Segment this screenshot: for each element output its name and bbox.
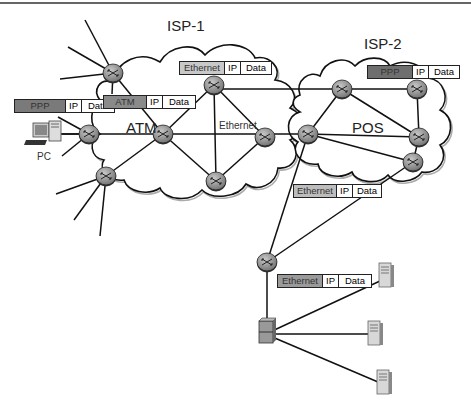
router-isp1-c: [255, 128, 275, 148]
packet-pc-ppp: PPP IP Data: [14, 99, 115, 113]
server-icon: [377, 370, 392, 394]
pc-label: PC: [37, 151, 51, 162]
router-isp1-d: [96, 167, 116, 187]
router-isp1-b: [204, 76, 224, 96]
ip-header: IP: [413, 66, 429, 78]
layer2-header: ATM: [104, 96, 147, 108]
ip-header: IP: [225, 62, 241, 74]
router-isp2-d: [409, 128, 429, 148]
switch-icon: [259, 318, 276, 343]
packet-isp1-ethernet: Ethernet IP Data: [179, 61, 272, 75]
ip-header: IP: [323, 275, 339, 287]
server-icon: [379, 263, 394, 287]
layer2-header: PPP: [15, 100, 66, 112]
atm-network-label: ATM: [126, 119, 157, 136]
pos-network-label: POS: [352, 119, 384, 136]
router-isp1-a: [103, 64, 123, 84]
ip-header: IP: [66, 100, 82, 112]
payload: Data: [241, 62, 271, 74]
payload: Data: [163, 96, 195, 108]
packet-isp2-ppp: PPP IP Data: [367, 65, 460, 79]
isp2-label: ISP-2: [364, 35, 402, 52]
server-icon: [368, 321, 383, 345]
payload: Data: [339, 275, 371, 287]
ethernet-network-label: Ethernet: [219, 120, 257, 131]
isp1-label: ISP-1: [167, 17, 205, 34]
layer2-header: PPP: [368, 66, 413, 78]
payload: Data: [429, 66, 459, 78]
layer2-header: Ethernet: [180, 62, 225, 74]
layer2-header: Ethernet: [278, 275, 323, 287]
layer2-header: Ethernet: [294, 185, 337, 197]
ip-header: IP: [147, 96, 163, 108]
packet-uplink-ethernet: Ethernet IP Data: [293, 184, 382, 198]
router-customer: [257, 253, 277, 273]
packet-isp1-atm: ATM IP Data: [103, 95, 196, 109]
router-isp1-e: [206, 172, 226, 192]
router-isp2-a: [332, 80, 352, 100]
router-isp2-c: [298, 125, 318, 145]
router-isp2-b: [407, 80, 427, 100]
packet-lan-ethernet: Ethernet IP Data: [277, 274, 372, 288]
ip-header: IP: [337, 185, 353, 197]
router-isp2-e: [403, 153, 423, 173]
pc-icon: [24, 121, 61, 145]
payload: Data: [353, 185, 381, 197]
router-isp1-edge-pc: [79, 125, 99, 145]
